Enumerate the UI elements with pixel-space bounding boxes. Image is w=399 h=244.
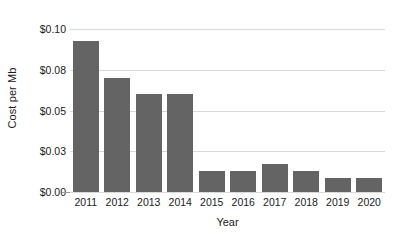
- gridline: [70, 70, 385, 71]
- x-tick-label: 2015: [200, 196, 223, 208]
- x-tick-label: 2017: [263, 196, 286, 208]
- y-tick-label: $0.05: [22, 105, 66, 117]
- bar: [325, 178, 351, 192]
- y-tick-label: $0.08: [22, 64, 66, 76]
- x-tick-label: 2012: [106, 196, 129, 208]
- gridline: [70, 192, 385, 193]
- x-tick-label: 2016: [232, 196, 255, 208]
- bar: [293, 171, 319, 192]
- y-axis-title-text: Cost per Mb: [5, 67, 17, 128]
- y-tick-label: $0.10: [22, 23, 66, 35]
- bar: [199, 171, 225, 192]
- x-tick-label: 2018: [295, 196, 318, 208]
- bar: [230, 171, 256, 192]
- bar: [136, 94, 162, 192]
- y-axis-title: Cost per Mb: [0, 0, 22, 196]
- bar-chart-screenshot: Cost per Mb $0.00$0.03$0.05$0.08$0.10 20…: [0, 0, 399, 244]
- x-tick-label: 2019: [326, 196, 349, 208]
- bar: [167, 94, 193, 192]
- y-tick-label: $0.03: [22, 145, 66, 157]
- bar: [262, 164, 288, 192]
- x-tick-label: 2013: [137, 196, 160, 208]
- bar: [104, 78, 130, 192]
- x-tick-label: 2014: [169, 196, 192, 208]
- plot-area: [70, 21, 385, 192]
- x-tick-label: 2011: [74, 196, 97, 208]
- y-tick-label: $0.00: [22, 186, 66, 198]
- bar: [356, 178, 382, 192]
- gridline: [70, 29, 385, 30]
- x-axis-title: Year: [70, 216, 385, 228]
- x-tick-label: 2020: [358, 196, 381, 208]
- bar: [73, 41, 99, 192]
